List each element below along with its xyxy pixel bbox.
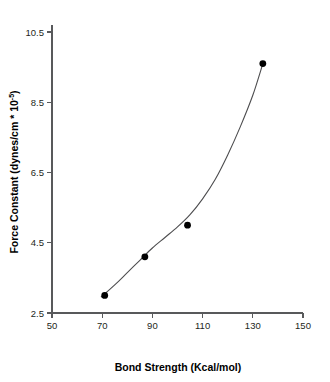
x-axis-tick-label: 130 — [245, 320, 261, 331]
y-axis-tick-label: 4.5 — [31, 237, 44, 248]
y-axis-tick-label: 2.5 — [31, 308, 44, 319]
x-axis-tick-label: 150 — [295, 320, 311, 331]
data-point-marker — [101, 292, 108, 299]
data-point-marker — [141, 253, 148, 260]
x-axis-tick-label: 90 — [147, 320, 158, 331]
x-axis-tick-label: 50 — [47, 320, 58, 331]
y-axis-title-main: Force Constant (dynes/cm * 10 — [8, 100, 20, 254]
y-axis-tick-label: 6.5 — [31, 167, 44, 178]
y-axis-tick-label: 8.5 — [31, 97, 44, 108]
data-point-marker — [259, 60, 266, 67]
y-axis-title-suffix: ) — [8, 90, 20, 94]
chart-figure: 507090110130150 2.54.56.58.510.5 Bond St… — [0, 0, 330, 382]
scatter-plot: 507090110130150 2.54.56.58.510.5 Bond St… — [0, 0, 330, 382]
y-axis-title: Force Constant (dynes/cm * 10-5) — [8, 90, 20, 253]
y-axis-tick-label: 10.5 — [26, 27, 45, 38]
x-axis-tick-label: 110 — [195, 320, 210, 331]
data-point-marker — [184, 222, 191, 229]
x-axis-tick-label: 70 — [97, 320, 108, 331]
y-axis-title-group: Force Constant (dynes/cm * 10-5) — [8, 90, 20, 253]
x-axis-title: Bond Strength (Kcal/mol) — [115, 361, 242, 373]
